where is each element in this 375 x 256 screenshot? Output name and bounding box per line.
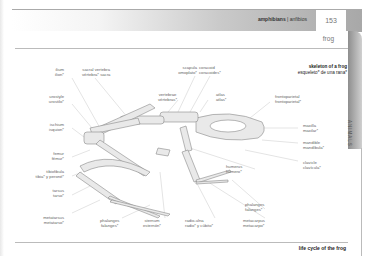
label-sternum: sternumesternón* (143, 218, 161, 228)
bottom-rule (15, 242, 348, 243)
label-metacarpus: metacarpusmetacarpo* (243, 218, 265, 228)
label-ischium: ischiumisquion* (49, 122, 64, 132)
label-metatarsus: metatarsusmetatarso* (43, 215, 64, 225)
label-sacral-vertebra: sacral vertebravértebra* sacra (82, 67, 110, 77)
label-clavicle: clavicleclavícula* (303, 160, 321, 170)
label-phalanges-fore: phalangesfalanges* (245, 202, 264, 212)
label-vertebrae: vertebraevértebras* (158, 92, 177, 102)
label-ilium: iliumilion* (55, 67, 64, 77)
bones (76, 104, 264, 218)
label-phalanges-hind: phalangesfalanges* (100, 218, 119, 228)
next-section-heading: life cycle of the frog (299, 245, 346, 251)
label-radio-ulna: radio-ulnaradio* y cúbito* (185, 218, 213, 228)
label-urostyle: urostyleurostilo* (49, 94, 64, 104)
label-humerus: humerushúmero* (226, 164, 242, 174)
label-frontoparietal: frontoparietalfrontoparietal* (275, 94, 301, 104)
label-femur: femurfémur* (52, 151, 64, 161)
label-scapula: scapulaomoplato* (178, 65, 197, 75)
label-coracoid: coracoidcoracoides* (199, 65, 221, 75)
label-maxilla: maxillamaxilar* (303, 123, 318, 133)
label-tarsus: tarsustarso* (53, 188, 64, 198)
label-atlas: atlasatlas* (216, 92, 226, 102)
label-mandible: mandiblemandíbula* (303, 140, 324, 150)
label-tibiofibula: tibiofibulatibia* y peroné* (36, 169, 64, 179)
book-page: amphibians | anfibios 153 frog ANIMALS s… (0, 0, 375, 256)
